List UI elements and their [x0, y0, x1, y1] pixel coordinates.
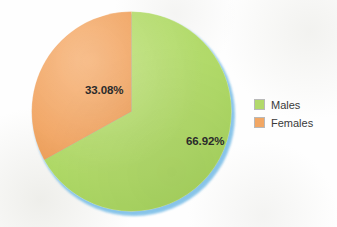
legend-item-females[interactable]: Females [254, 114, 332, 131]
pie-label-males: 66.92% [186, 135, 224, 147]
chart-legend: Males Females [254, 96, 332, 132]
pie-chart-figure: 33.08% 66.92% Males Females [0, 0, 337, 227]
pie-disc [31, 11, 232, 212]
legend-item-males[interactable]: Males [254, 96, 332, 113]
pie-label-females: 33.08% [85, 84, 123, 96]
legend-label-females: Females [271, 117, 313, 129]
legend-label-males: Males [271, 99, 300, 111]
legend-swatch-females [254, 117, 265, 128]
legend-swatch-males [254, 99, 265, 110]
pie-chart-plot-area: 33.08% 66.92% [31, 11, 235, 215]
